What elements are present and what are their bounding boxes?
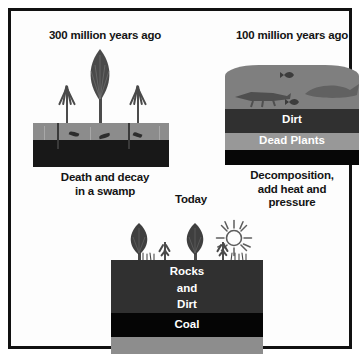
layer-dirt: Dirt (225, 109, 359, 133)
panel-past-title: 300 million years ago (25, 29, 185, 43)
lepidodendron-plant-icon (81, 49, 119, 129)
tree-right-icon (180, 223, 210, 265)
layer-coal-label: Coal (111, 318, 263, 330)
coal-formation-figure: 300 million years ago (0, 0, 363, 359)
leaf-shape-icon (81, 49, 119, 109)
panel-today-title: Today (151, 193, 231, 207)
whale-icon (303, 82, 359, 100)
panel-middle-title: 100 million years ago (221, 29, 363, 43)
layer-swamp-peat (33, 140, 169, 167)
layer-dead-plants: Dead Plants (225, 133, 359, 150)
layer-rocks-and-dirt-label: Rocks and Dirt (111, 263, 263, 313)
figure-border: 300 million years ago (8, 8, 352, 349)
layer-coal: Coal (111, 313, 263, 337)
layer-bedrock (225, 150, 359, 165)
layer-rocks-and-dirt: Rocks and Dirt (111, 260, 263, 313)
tree-canopy-icon (180, 223, 210, 257)
today-strata-block: Rocks and Dirt Coal (111, 260, 263, 354)
shrub-icon (158, 242, 172, 262)
panel-middle-caption: Decomposition, add heat and pressure (219, 169, 363, 210)
fern-plant-left-icon (57, 87, 77, 127)
reed-icon (159, 126, 160, 140)
fish-icon (285, 98, 300, 106)
reed-icon (44, 126, 45, 140)
root-icon (57, 123, 59, 149)
fern-plant-right-icon (128, 87, 148, 127)
layer-ocean-water (225, 65, 359, 109)
reed-icon (90, 127, 91, 140)
shrub-icon (216, 242, 230, 262)
layer-dirt-label: Dirt (225, 113, 359, 125)
layer-base-rock (111, 337, 263, 354)
fish-icon (280, 71, 295, 79)
layer-dead-plants-label: Dead Plants (225, 134, 359, 146)
ocean-strata-block: Dirt Dead Plants (225, 65, 359, 165)
swamp-ground-block (33, 123, 169, 167)
root-icon (128, 123, 130, 149)
